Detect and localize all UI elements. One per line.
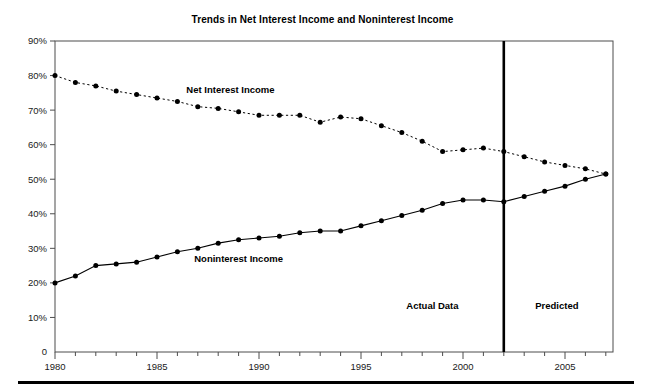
series-point xyxy=(420,208,425,213)
y-tick-label: 40% xyxy=(28,208,48,219)
series-point xyxy=(563,163,568,168)
x-tick-label: 1985 xyxy=(146,361,167,372)
y-tick-label: 80% xyxy=(28,70,48,81)
series-point xyxy=(257,113,262,118)
x-tick-label: 1990 xyxy=(248,361,269,372)
series-point xyxy=(73,273,78,278)
series-point xyxy=(338,115,343,120)
series-point xyxy=(522,154,527,159)
series-point xyxy=(379,218,384,223)
series-point xyxy=(297,113,302,118)
series-point xyxy=(53,280,58,285)
series-point xyxy=(399,130,404,135)
series-point xyxy=(257,235,262,240)
series-point xyxy=(216,241,221,246)
x-tick-label: 2005 xyxy=(554,361,575,372)
series-point xyxy=(583,166,588,171)
chart-plot-area: 010%20%30%40%50%60%70%80%90%198019851990… xyxy=(0,0,645,391)
series-point xyxy=(583,177,588,182)
series-point xyxy=(114,89,119,94)
y-tick-label: 90% xyxy=(28,35,48,46)
series-point xyxy=(440,201,445,206)
y-tick-label: 30% xyxy=(28,243,48,254)
series-point xyxy=(114,261,119,266)
series-point xyxy=(175,249,180,254)
x-tick-label: 2000 xyxy=(452,361,473,372)
series-point xyxy=(134,260,139,265)
series-point xyxy=(53,73,58,78)
series-point xyxy=(481,146,486,151)
predicted-label: Predicted xyxy=(535,300,578,311)
series-point xyxy=(318,229,323,234)
series-line-2 xyxy=(55,174,606,283)
series-point xyxy=(603,172,608,177)
series-point xyxy=(93,83,98,88)
series-point xyxy=(277,113,282,118)
series-point xyxy=(277,234,282,239)
actual-data-label: Actual Data xyxy=(406,300,459,311)
series-point xyxy=(236,109,241,114)
series-point xyxy=(542,159,547,164)
y-tick-label: 10% xyxy=(28,312,48,323)
series-label-1: Net Interest Income xyxy=(186,84,274,95)
series-point xyxy=(175,99,180,104)
series-point xyxy=(440,149,445,154)
series-point xyxy=(359,116,364,121)
series-point xyxy=(216,106,221,111)
series-point xyxy=(297,230,302,235)
series-point xyxy=(481,197,486,202)
y-tick-label: 50% xyxy=(28,174,48,185)
x-tick-label: 1995 xyxy=(350,361,371,372)
plot-frame xyxy=(55,41,613,352)
y-tick-label: 60% xyxy=(28,139,48,150)
series-point xyxy=(318,120,323,125)
series-point xyxy=(542,189,547,194)
y-tick-label: 0 xyxy=(42,346,47,357)
series-point xyxy=(461,197,466,202)
series-point xyxy=(359,223,364,228)
y-tick-label: 20% xyxy=(28,277,48,288)
series-label-2: Noninterest Income xyxy=(194,253,283,264)
series-point xyxy=(522,194,527,199)
series-point xyxy=(73,80,78,85)
series-point xyxy=(236,237,241,242)
x-tick-label: 1980 xyxy=(44,361,65,372)
series-point xyxy=(93,263,98,268)
footer-divider xyxy=(18,381,634,384)
series-point xyxy=(338,229,343,234)
series-point xyxy=(563,184,568,189)
series-point xyxy=(379,123,384,128)
series-line-1 xyxy=(55,76,606,174)
series-point xyxy=(195,246,200,251)
series-point xyxy=(155,254,160,259)
series-point xyxy=(195,104,200,109)
y-tick-label: 70% xyxy=(28,105,48,116)
chart-container: Trends in Net Interest Income and Nonint… xyxy=(0,0,645,391)
series-point xyxy=(461,147,466,152)
series-point xyxy=(155,96,160,101)
series-point xyxy=(420,139,425,144)
series-point xyxy=(134,92,139,97)
series-point xyxy=(399,213,404,218)
